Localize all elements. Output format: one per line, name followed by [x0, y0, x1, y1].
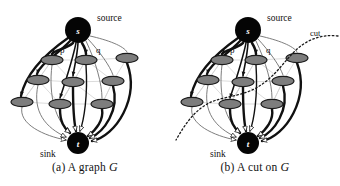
figure-panel-b: s t source sink p q cut (b) A cut on G — [170, 0, 340, 186]
graph-node — [197, 75, 219, 84]
sink-edges-a — [22, 63, 131, 141]
source-text-label: source — [97, 13, 122, 23]
graph-node — [261, 99, 283, 108]
caption-b: (b) A cut on G — [170, 160, 340, 175]
graph-node-q — [245, 55, 267, 64]
figure-root: s t source sink p q (a) A graph G — [0, 0, 340, 186]
sink-edges-b — [192, 63, 301, 141]
node-label-q: q — [266, 45, 271, 55]
graph-node — [49, 99, 71, 108]
graph-node — [232, 77, 254, 86]
graph-node — [91, 99, 113, 108]
source-text-label: source — [267, 13, 292, 23]
graph-node — [27, 75, 49, 84]
caption-b-prefix: (b) A cut on — [221, 161, 281, 173]
graph-node — [116, 53, 138, 62]
sink-text-label: sink — [210, 149, 226, 159]
graph-diagram-a: s t source sink p q — [0, 0, 170, 166]
graph-node — [286, 53, 308, 62]
caption-a-prefix: (a) A graph — [52, 161, 109, 173]
graph-nodes-b — [181, 53, 308, 108]
figure-panel-a: s t source sink p q (a) A graph G — [0, 0, 170, 186]
source-node-label: s — [75, 26, 80, 36]
node-label-q: q — [96, 45, 101, 55]
graph-node — [181, 97, 203, 106]
graph-nodes-a — [11, 53, 138, 108]
caption-a-symbol: G — [109, 160, 118, 174]
graph-node — [11, 97, 33, 106]
cut-line — [176, 36, 338, 140]
node-label-p: p — [230, 45, 235, 55]
graph-node — [62, 77, 84, 86]
graph-node — [272, 76, 294, 85]
caption-a: (a) A graph G — [0, 160, 170, 175]
cut-label: cut — [310, 28, 321, 38]
graph-node-q — [75, 55, 97, 64]
graph-diagram-b: s t source sink p q cut — [170, 0, 340, 166]
source-node-label: s — [245, 26, 250, 36]
graph-node-p — [211, 55, 233, 64]
caption-b-symbol: G — [281, 160, 290, 174]
graph-node-p — [41, 55, 63, 64]
graph-node — [102, 76, 124, 85]
sink-text-label: sink — [40, 149, 56, 159]
node-label-p: p — [60, 45, 65, 55]
graph-node — [219, 99, 241, 108]
